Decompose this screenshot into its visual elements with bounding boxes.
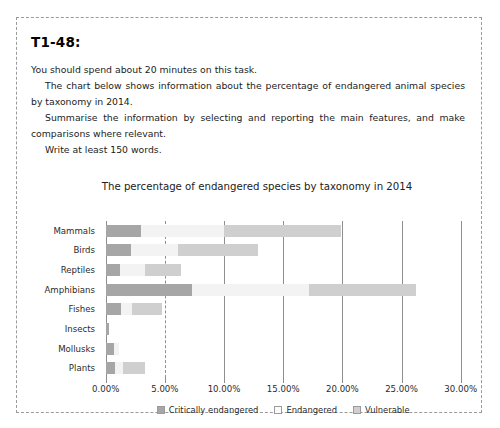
- prompt-line-2: The chart below shows information about …: [31, 78, 465, 109]
- bar-row: [106, 225, 461, 237]
- gridline-30: [461, 221, 462, 378]
- x-axis-label: 15.00%: [253, 384, 313, 394]
- bar-row: [106, 323, 461, 335]
- bar-segment: [115, 362, 123, 374]
- prompt-line-3: Summarise the information by selecting a…: [31, 110, 465, 141]
- legend-swatch-icon: [274, 406, 282, 414]
- chart-category-labels: MammalsBirdsReptilesAmphibiansFishesInse…: [17, 221, 101, 378]
- bar-segment: [178, 244, 258, 256]
- bar-segment: [106, 244, 131, 256]
- x-tick: [224, 378, 225, 383]
- legend-swatch-icon: [157, 406, 165, 414]
- bar-segment: [121, 303, 132, 315]
- prompt-line-4: Write at least 150 words.: [31, 142, 465, 157]
- bar-segment: [224, 225, 341, 237]
- category-label-mammals: Mammals: [53, 225, 95, 237]
- legend-label: Endangered: [286, 405, 337, 415]
- chart-legend: Critically endangeredEndangeredVulnerabl…: [106, 402, 461, 418]
- legend-item: Endangered: [274, 405, 337, 415]
- bar-segment: [114, 343, 119, 355]
- bar-segment: [106, 225, 142, 237]
- category-label-insects: Insects: [65, 323, 95, 335]
- chart-bars: [106, 221, 461, 378]
- x-tick: [106, 378, 107, 383]
- bar-segment: [120, 264, 145, 276]
- bar-segment: [192, 284, 309, 296]
- task-title: T1-48:: [31, 34, 81, 50]
- bar-row: [106, 244, 461, 256]
- x-axis-label: 5.00%: [135, 384, 195, 394]
- category-label-fishes: Fishes: [69, 303, 95, 315]
- bar-row: [106, 284, 461, 296]
- category-label-plants: Plants: [69, 362, 95, 374]
- x-tick: [342, 378, 343, 383]
- legend-label: Vulnerable: [365, 405, 410, 415]
- page-root: T1-48: You should spend about 20 minutes…: [0, 0, 500, 428]
- chart-x-labels: 0.00%5.00%10.00%15.00%20.00%25.00%30.00%: [17, 384, 483, 398]
- bar-segment: [106, 323, 110, 335]
- category-label-amphibians: Amphibians: [44, 284, 95, 296]
- legend-swatch-icon: [353, 406, 361, 414]
- x-axis-label: 20.00%: [312, 384, 372, 394]
- x-tick: [165, 378, 166, 383]
- chart: The percentage of endangered species by …: [17, 176, 483, 412]
- bar-segment: [106, 264, 120, 276]
- bar-row: [106, 362, 461, 374]
- bar-segment: [106, 303, 121, 315]
- x-tick: [461, 378, 462, 383]
- x-axis-label: 0.00%: [76, 384, 136, 394]
- legend-label: Critically endangered: [169, 405, 259, 415]
- bar-segment: [106, 284, 192, 296]
- category-label-mollusks: Mollusks: [58, 343, 95, 355]
- x-tick: [283, 378, 284, 383]
- bar-row: [106, 264, 461, 276]
- x-axis-label: 30.00%: [431, 384, 491, 394]
- bar-segment: [145, 264, 182, 276]
- category-label-birds: Birds: [73, 244, 95, 256]
- bar-segment: [309, 284, 416, 296]
- bar-segment: [131, 244, 178, 256]
- legend-item: Critically endangered: [157, 405, 259, 415]
- bar-segment: [123, 362, 144, 374]
- prompt-line-1: You should spend about 20 minutes on thi…: [31, 62, 465, 77]
- task-card: T1-48: You should spend about 20 minutes…: [16, 17, 482, 413]
- bar-segment: [106, 362, 115, 374]
- x-axis-label: 25.00%: [372, 384, 432, 394]
- bar-segment: [141, 225, 224, 237]
- category-label-reptiles: Reptiles: [61, 264, 95, 276]
- x-axis-label: 10.00%: [194, 384, 254, 394]
- bar-segment: [106, 343, 114, 355]
- bar-row: [106, 303, 461, 315]
- chart-title: The percentage of endangered species by …: [77, 180, 437, 194]
- bar-row: [106, 343, 461, 355]
- legend-item: Vulnerable: [353, 405, 410, 415]
- task-prompt: You should spend about 20 minutes on thi…: [31, 62, 465, 158]
- x-tick: [402, 378, 403, 383]
- bar-segment: [132, 303, 163, 315]
